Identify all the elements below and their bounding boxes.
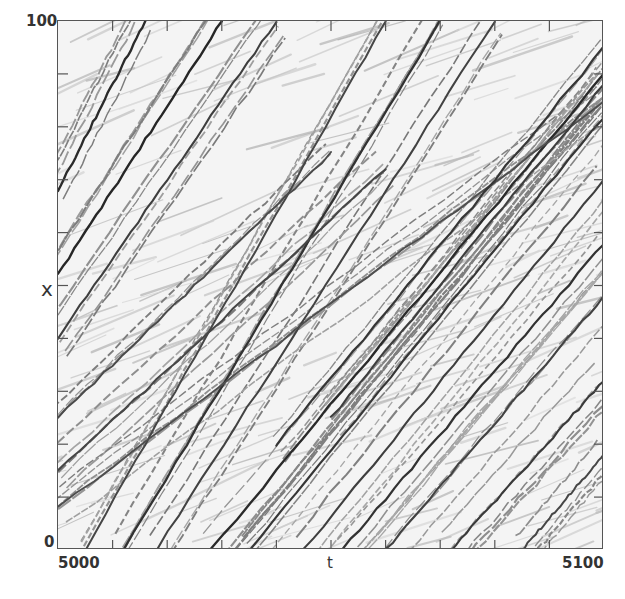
y-tick-label-min: 0 [44,533,54,551]
background-texture [58,21,603,549]
x-tick-label-min: 5000 [58,554,100,572]
y-tick-label-max: 100 [26,12,57,30]
y-axis-label: x [41,277,53,301]
streak-bands [58,21,603,549]
space-time-diagram [58,21,603,549]
plot-area [57,20,603,549]
axis-ticks [58,21,603,549]
x-axis-label: t [327,554,333,572]
main-streaks [58,21,603,549]
x-tick-label-max: 5100 [562,554,604,572]
